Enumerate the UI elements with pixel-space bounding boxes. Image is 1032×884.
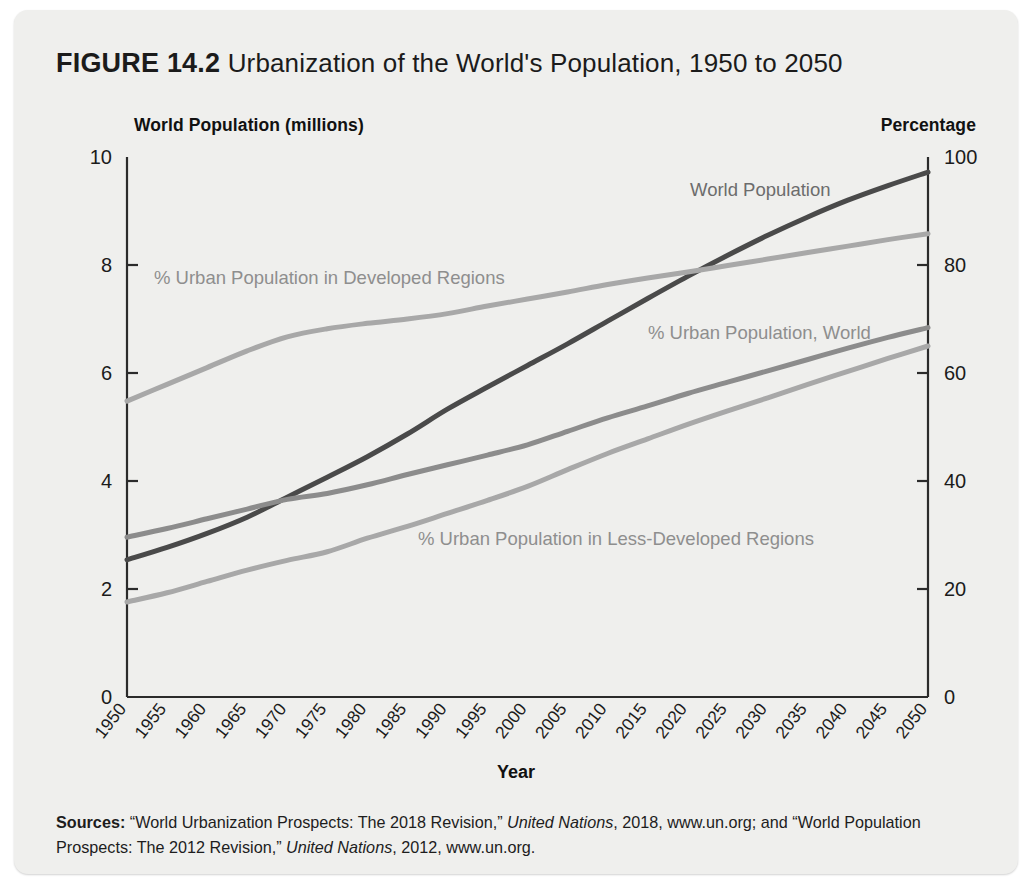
y2-tick-label: 80 (944, 254, 966, 276)
series-annotation-label: % Urban Population in Developed Regions (154, 267, 505, 288)
series-annotation-label: % Urban Population, World (648, 322, 871, 343)
x-tick-label: 1995 (451, 699, 491, 742)
y2-tick-label: 100 (944, 146, 977, 168)
series-line (127, 328, 928, 538)
y-tick-label: 2 (101, 578, 112, 600)
y-tick-label: 8 (101, 254, 112, 276)
sources-line2-b: , 2012, www.un.org. (392, 838, 535, 856)
x-tick-label: 2040 (811, 699, 851, 742)
y2-tick-label: 60 (944, 362, 966, 384)
x-axis-title: Year (14, 762, 1018, 783)
axis-lines (127, 157, 928, 697)
x-tick-label: 2025 (691, 699, 731, 742)
x-tick-label: 2015 (611, 699, 651, 742)
x-tick-label: 1950 (90, 699, 130, 742)
x-tick-label: 2020 (651, 699, 691, 742)
x-tick-label: 1975 (291, 699, 331, 742)
x-tick-label: 2005 (531, 699, 571, 742)
x-tick-label: 2035 (771, 699, 811, 742)
x-tick-label: 2050 (891, 699, 931, 742)
y-tick-label: 6 (101, 362, 112, 384)
y2-tick-label: 20 (944, 578, 966, 600)
sources-line1-italic: United Nations (507, 813, 613, 831)
sources-note: Sources: “World Urbanization Prospects: … (56, 810, 986, 860)
y-tick-label: 10 (90, 146, 112, 168)
x-tick-label: 1980 (331, 699, 371, 742)
x-tick-label: 2030 (731, 699, 771, 742)
sources-line1-a: “World Urbanization Prospects: The 2018 … (125, 813, 507, 831)
y2-tick-label: 40 (944, 470, 966, 492)
x-tick-label: 1955 (130, 699, 170, 742)
x-tick-label: 2010 (571, 699, 611, 742)
x-tick-label: 1965 (211, 699, 251, 742)
figure-card: FIGURE 14.2 Urbanization of the World's … (14, 10, 1018, 874)
series-annotation-label: World Population (690, 179, 831, 200)
series-line (127, 234, 928, 401)
x-tick-label: 2000 (491, 699, 531, 742)
series-line (127, 346, 928, 602)
x-tick-label: 1990 (411, 699, 451, 742)
x-tick-label: 1960 (171, 699, 211, 742)
y-axis-tick-labels: 0246810 (90, 146, 112, 708)
x-tick-label: 2045 (851, 699, 891, 742)
line-chart-svg: 0246810 020406080100 1950195519601965197… (14, 10, 1018, 790)
y2-tick-label: 0 (944, 686, 955, 708)
series-line (127, 172, 928, 560)
x-tick-label: 1985 (371, 699, 411, 742)
y-tick-label: 4 (101, 470, 112, 492)
chart-plot-area: 0246810 020406080100 1950195519601965197… (14, 10, 1018, 874)
series-annotation-label: % Urban Population in Less-Developed Reg… (418, 528, 814, 549)
sources-prefix: Sources: (56, 813, 125, 831)
x-axis-tick-labels: 1950195519601965197019751980198519901995… (90, 699, 931, 742)
y2-axis-tick-labels: 020406080100 (944, 146, 977, 708)
sources-line2-italic: United Nations (286, 838, 392, 856)
x-tick-label: 1970 (251, 699, 291, 742)
